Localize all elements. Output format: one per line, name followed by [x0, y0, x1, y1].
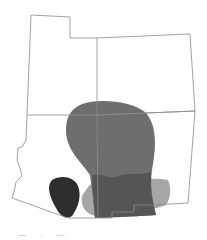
border-utah — [27, 15, 97, 115]
range-overlay-overlap — [92, 172, 156, 218]
range-overlay-dark — [49, 177, 80, 218]
range-map — [0, 0, 207, 240]
map-caption: — . — — [18, 230, 71, 239]
